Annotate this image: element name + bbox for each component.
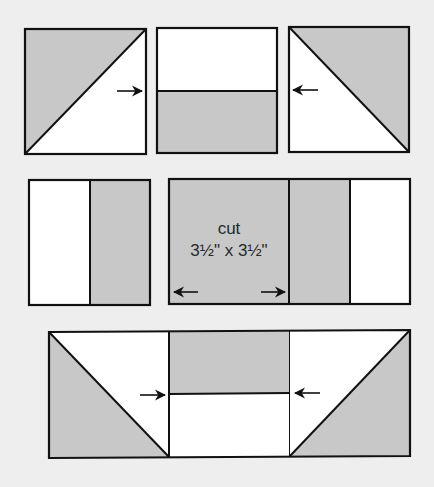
strip-unit-middle-right <box>289 179 410 304</box>
cut-dimensions: 3½" x 3½" <box>169 240 289 262</box>
strip-unit-middle-left <box>29 180 150 305</box>
cut-label: cut 3½" x 3½" <box>169 218 289 262</box>
top-row <box>25 27 409 154</box>
strip-unit-top-middle <box>157 28 277 153</box>
cut-label-line1: cut <box>169 218 289 240</box>
strip-unit-bottom-middle <box>169 330 290 457</box>
bottom-row <box>49 330 410 458</box>
